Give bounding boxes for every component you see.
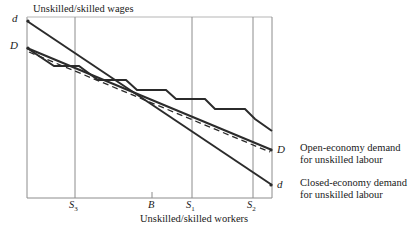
curve-tag-closed-demand-left: d <box>12 12 18 25</box>
legend-open-economy-line1: Open-economy demand <box>300 142 401 154</box>
y-axis-title: Unskilled/skilled wages <box>33 3 134 15</box>
x-tick-label-s2: S2 <box>247 199 256 213</box>
economics-demand-chart: Unskilled/skilled wages Unskilled/skille… <box>0 0 416 232</box>
x-axis-title: Unskilled/skilled workers <box>140 213 248 225</box>
curve-tag-open-demand-left: D <box>10 39 18 52</box>
open-economy-demand-step-curve <box>27 48 272 131</box>
x-tick-label-s1: S1 <box>186 199 195 213</box>
x-tick-label-s1-sub: 1 <box>191 205 195 213</box>
x-tick-label-s2-sub: 2 <box>252 205 256 213</box>
x-tick-label-s3-sub: 3 <box>74 205 78 213</box>
x-tick-label-b-base: B <box>148 199 154 210</box>
closed-economy-demand-line <box>27 21 272 185</box>
legend-closed-economy-line2: for unskilled labour <box>300 189 407 201</box>
legend-entry-closed-economy: Closed-economy demand for unskilled labo… <box>300 177 407 202</box>
curve-tag-closed-demand-right: d <box>277 178 283 191</box>
x-tick-label-b: B <box>148 199 154 213</box>
open-economy-demand-line <box>27 48 272 150</box>
legend-open-economy-line2: for unskilled labour <box>300 154 401 166</box>
legend-closed-economy-line1: Closed-economy demand <box>300 177 407 189</box>
gridline-group <box>75 17 272 198</box>
legend-entry-open-economy: Open-economy demand for unskilled labour <box>300 142 401 167</box>
x-tick-label-s3: S3 <box>69 199 78 213</box>
curve-tag-open-demand-right: D <box>277 143 285 156</box>
axis-group <box>27 17 272 198</box>
